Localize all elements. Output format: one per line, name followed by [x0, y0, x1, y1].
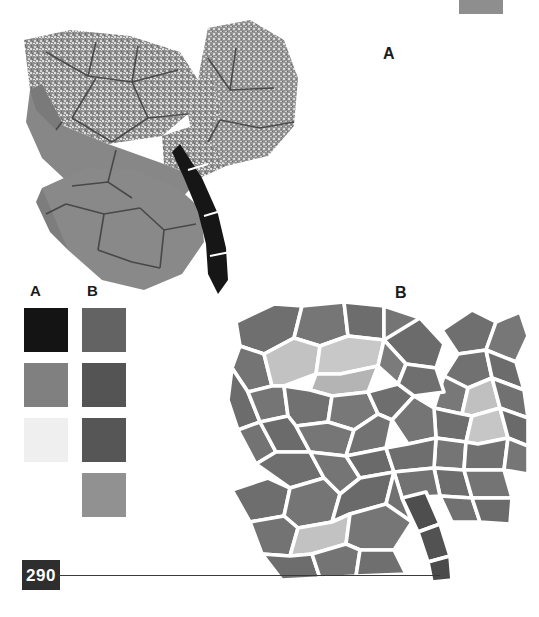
legend-swatch-b-3: [82, 418, 126, 462]
leaf-a-svg: [12, 18, 312, 308]
page-number-plate: 290: [22, 560, 60, 590]
figure-leaf-b: [228, 292, 528, 582]
legend-column-a-header: A: [30, 283, 41, 298]
legend-swatch-b-2: [82, 363, 126, 407]
figure-page: A B A B 290: [0, 0, 539, 617]
legend-swatch-b-4: [82, 473, 126, 517]
leaf-b-svg: [228, 292, 528, 582]
legend-swatch-a-1: [24, 308, 68, 352]
legend-swatch-a-2: [24, 363, 68, 407]
leaf-b-tiles: [228, 302, 528, 582]
figure-b-label: B: [395, 285, 407, 301]
page-number: 290: [26, 567, 56, 584]
figure-a-label: A: [383, 46, 395, 62]
footer-rule: [58, 575, 440, 576]
figure-leaf-a: [12, 18, 312, 308]
legend-swatch-a-3: [24, 418, 68, 462]
corner-swatch: [459, 0, 503, 14]
legend-column-b-header: B: [87, 283, 98, 298]
legend-swatch-b-1: [82, 308, 126, 352]
